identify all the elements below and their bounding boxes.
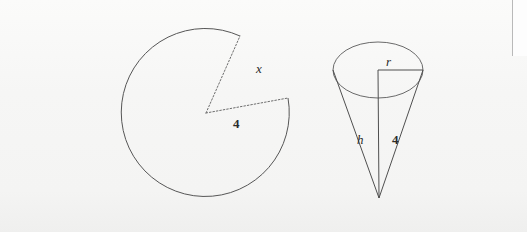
page-edge-shade	[513, 0, 527, 56]
figure-page: x 4 r h 4	[0, 0, 527, 232]
cone-left-slant	[333, 70, 379, 198]
sector-radius-upper-dotted	[206, 36, 240, 113]
sector-major-arc	[121, 28, 289, 196]
sector-arc-label: x	[256, 62, 262, 75]
sector-circle-figure	[121, 28, 289, 196]
cone-height-label: h	[357, 133, 364, 146]
cone-right-slant	[379, 70, 423, 198]
cone-radius-label: r	[386, 55, 391, 68]
geometry-illustration	[0, 0, 527, 232]
cone-top-back-arc	[333, 42, 423, 70]
cone-slant-label: 4	[392, 133, 399, 146]
sector-radius-label: 4	[233, 117, 240, 130]
sector-radius-lower-dotted	[206, 98, 288, 113]
cone-height-line	[378, 70, 379, 198]
page-edge-rule	[512, 0, 513, 56]
cone-figure	[333, 42, 423, 198]
